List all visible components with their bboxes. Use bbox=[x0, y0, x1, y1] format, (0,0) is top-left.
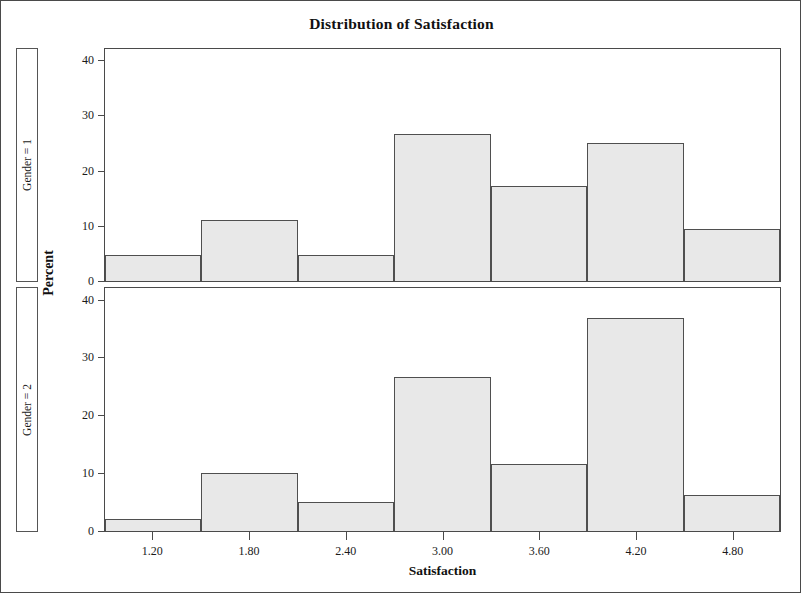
x-axis-tick bbox=[733, 532, 734, 540]
x-axis-tick bbox=[152, 532, 153, 540]
x-axis-tick bbox=[636, 532, 637, 540]
y-axis-tick-label: 20 bbox=[82, 408, 94, 423]
histogram-bar bbox=[201, 220, 297, 281]
y-axis-tick bbox=[98, 415, 105, 416]
x-axis-tick-label: 4.80 bbox=[722, 544, 743, 559]
x-axis-tick bbox=[249, 532, 250, 540]
strip-label-text: Gender = 2 bbox=[21, 384, 33, 436]
x-axis-tick bbox=[346, 532, 347, 540]
y-axis-tick bbox=[98, 226, 105, 227]
panel-strip-label-gender-2: Gender = 2 bbox=[16, 287, 38, 532]
y-axis-tick-label: 10 bbox=[82, 218, 94, 233]
histogram-bar bbox=[491, 464, 587, 531]
y-axis-tick-label: 30 bbox=[82, 350, 94, 365]
y-axis-label: Percent bbox=[39, 1, 59, 593]
y-axis-tick-label: 40 bbox=[82, 53, 94, 68]
chart-title: Distribution of Satisfaction bbox=[1, 15, 801, 33]
histogram-bar bbox=[684, 495, 780, 531]
y-axis-tick-label: 0 bbox=[88, 524, 94, 539]
y-axis-tick bbox=[98, 357, 105, 358]
histogram-bar bbox=[105, 519, 201, 531]
x-axis-tick-label: 1.20 bbox=[142, 544, 163, 559]
histogram-bar bbox=[201, 473, 297, 531]
histogram-bar bbox=[684, 229, 780, 281]
y-axis-tick bbox=[98, 300, 105, 301]
y-axis-tick bbox=[98, 115, 105, 116]
panel-gender-2: 010203040 bbox=[104, 287, 781, 532]
x-axis-tick-label: 4.20 bbox=[625, 544, 646, 559]
y-axis-tick-label: 20 bbox=[82, 163, 94, 178]
plot-area-gender-2 bbox=[105, 288, 780, 531]
x-axis-tick-label: 1.80 bbox=[239, 544, 260, 559]
y-axis-tick bbox=[98, 473, 105, 474]
plot-area-gender-1 bbox=[105, 49, 780, 281]
panel-gender-1: 010203040 bbox=[104, 48, 781, 282]
y-axis-tick bbox=[98, 171, 105, 172]
histogram-bar bbox=[298, 255, 394, 282]
y-axis-tick bbox=[98, 60, 105, 61]
x-axis-tick-label: 2.40 bbox=[335, 544, 356, 559]
x-axis-tick bbox=[539, 532, 540, 540]
histogram-bar bbox=[491, 186, 587, 281]
x-axis-tick-label: 3.00 bbox=[432, 544, 453, 559]
strip-label-text: Gender = 1 bbox=[21, 139, 33, 191]
histogram-bar bbox=[587, 143, 683, 281]
x-axis-tick-label: 3.60 bbox=[529, 544, 550, 559]
y-axis-tick-label: 10 bbox=[82, 466, 94, 481]
histogram-bar bbox=[394, 377, 490, 531]
x-axis-label: Satisfaction bbox=[104, 563, 781, 579]
panel-strip-label-gender-1: Gender = 1 bbox=[16, 48, 38, 282]
histogram-bar bbox=[298, 502, 394, 531]
y-axis-tick-label: 40 bbox=[82, 292, 94, 307]
x-axis-tick bbox=[443, 532, 444, 540]
y-axis-label-text: Percent bbox=[41, 250, 57, 296]
histogram-bar bbox=[105, 255, 201, 282]
histogram-bar bbox=[587, 318, 683, 531]
y-axis-tick-label: 0 bbox=[88, 274, 94, 289]
y-axis-tick bbox=[98, 281, 105, 282]
x-axis: 1.201.802.403.003.604.204.80 bbox=[104, 532, 781, 562]
figure-frame: Distribution of Satisfaction Gender = 1 … bbox=[0, 0, 801, 593]
y-axis-tick-label: 30 bbox=[82, 108, 94, 123]
histogram-bar bbox=[394, 134, 490, 281]
